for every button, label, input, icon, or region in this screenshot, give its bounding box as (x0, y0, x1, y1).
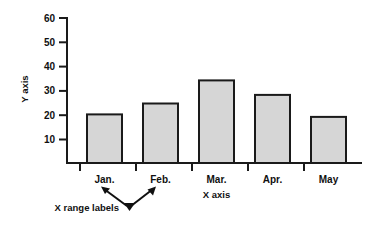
y-tick-label-20: 20 (44, 110, 56, 121)
chart-canvas: Y axis 60 50 40 30 20 10 Jan. Feb. (0, 0, 377, 226)
x-category-label-feb: Feb. (150, 174, 171, 185)
x-category-label-apr: Apr. (263, 174, 283, 185)
x-category-label-mar: Mar. (206, 174, 226, 185)
bar-may (311, 117, 346, 163)
bar-jan (87, 114, 122, 163)
x-category-label-jan: Jan. (94, 174, 114, 185)
bar-apr (255, 95, 290, 163)
y-tick-label-60: 60 (44, 13, 56, 24)
x-range-labels-annotation: X range labels (55, 187, 156, 214)
y-tick-label-10: 10 (44, 134, 56, 145)
annotation-arrowhead-feb (148, 187, 157, 196)
x-category-label-may: May (319, 174, 339, 185)
y-tick-label-50: 50 (44, 37, 56, 48)
y-tick-label-30: 30 (44, 85, 56, 96)
annotation-label-x-range: X range labels (55, 202, 119, 213)
bar-feb (143, 104, 178, 164)
bar-chart-figure: Y axis 60 50 40 30 20 10 Jan. Feb. (0, 0, 377, 226)
y-tick-label-40: 40 (44, 61, 56, 72)
annotation-junction-marker (124, 203, 135, 211)
x-axis-title: X axis (203, 189, 230, 200)
y-axis-title: Y axis (19, 75, 30, 102)
bar-mar (199, 80, 234, 163)
